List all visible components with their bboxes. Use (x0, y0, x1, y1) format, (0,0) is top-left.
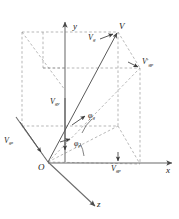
vector-Vgz-arrow (20, 122, 41, 152)
axis-z-line (48, 162, 95, 206)
box-edge-diag-rear (22, 32, 65, 90)
angle-label-phi-g-sub: g (92, 115, 94, 120)
vector-label-Vgp-sub: gp (116, 168, 121, 173)
angle-label-phi-g: φg (88, 112, 95, 121)
vector-label-Vgz: Vgz (4, 137, 13, 146)
vector-label-Vgy-sub: gy (55, 101, 60, 106)
vector-Vg-label-pointer (100, 34, 113, 39)
vector-label-Vgp-prime: V′gp (142, 58, 153, 68)
vector-label-Vg-sub: g (93, 37, 95, 42)
vector-label-Vg: Vg (88, 34, 95, 43)
point-label-V: V (119, 22, 125, 31)
vector-decomposition-figure: y x z O V Vg V′gp Vgy Vgz Vgp φg φp (0, 0, 179, 219)
axis-label-x: x (166, 166, 170, 175)
angle-label-phi-p-sub: p (78, 143, 80, 148)
vector-label-Vgz-sub: gz (9, 140, 13, 145)
angle-arcs-group (80, 119, 92, 156)
angle-phi-g-pointer (72, 116, 85, 125)
vector-label-Vgy: Vgy (50, 98, 60, 107)
vector-label-Vgp: Vgp (111, 165, 121, 174)
point-label-origin: O (38, 163, 45, 172)
axis-label-y: y (73, 22, 77, 31)
vector-label-Vgp-prime-sub: gp (148, 62, 153, 67)
angle-label-phi-p: φp (74, 140, 81, 149)
axis-label-z: z (97, 200, 101, 209)
box-edge-rear-right-to-front-bottom (118, 126, 140, 164)
